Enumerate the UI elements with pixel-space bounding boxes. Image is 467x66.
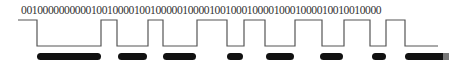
pulse-bars — [37, 53, 449, 60]
pulse-bar-tail — [443, 53, 449, 60]
pulse-bar — [227, 53, 243, 60]
pulse-bar — [118, 53, 147, 60]
pulse-bar — [320, 53, 343, 60]
pulse-bar — [405, 53, 449, 60]
signal-diagram — [0, 0, 467, 66]
pulse-bar — [372, 53, 386, 60]
pulse-bar — [266, 53, 294, 60]
pulse-bar — [37, 53, 101, 60]
square-waveform — [18, 20, 438, 46]
pulse-bar — [163, 53, 196, 60]
